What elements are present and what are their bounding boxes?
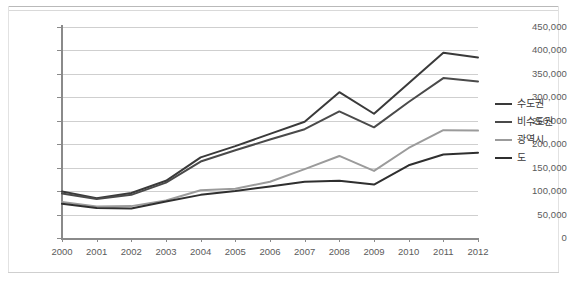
y-axis-label: 50,000 — [515, 209, 567, 220]
x-axis-tick — [270, 238, 271, 242]
legend-color-swatch — [495, 139, 512, 141]
chart-page: 050,000100,000150,000200,000250,000300,0… — [0, 0, 567, 285]
x-axis-label: 2012 — [458, 246, 498, 257]
legend-item[interactable]: 수도권 — [495, 96, 565, 112]
legend-color-swatch — [495, 157, 512, 159]
x-axis-tick — [305, 238, 306, 242]
legend-color-swatch — [495, 121, 512, 123]
y-axis-label: 350,000 — [515, 68, 567, 79]
x-axis-tick — [235, 238, 236, 242]
x-axis-tick — [201, 238, 202, 242]
legend-item[interactable]: 비수도권 — [495, 114, 565, 130]
x-axis-tick — [409, 238, 410, 242]
x-axis-tick — [339, 238, 340, 242]
y-axis-label: 400,000 — [515, 44, 567, 55]
y-axis-label: 450,000 — [515, 21, 567, 32]
x-axis-tick — [166, 238, 167, 242]
legend-label: 도 — [517, 153, 526, 163]
legend-label: 광역시 — [517, 135, 544, 145]
frame-bottom-border — [8, 272, 559, 273]
series-lines-group — [62, 27, 478, 238]
y-axis-label: 100,000 — [515, 185, 567, 196]
x-axis-tick — [443, 238, 444, 242]
series-line — [62, 53, 478, 198]
x-axis-tick — [62, 238, 63, 242]
x-axis-tick — [97, 238, 98, 242]
legend-label: 비수도권 — [517, 117, 553, 127]
x-axis-tick — [374, 238, 375, 242]
legend-item[interactable]: 광역시 — [495, 132, 565, 148]
chart-legend: 수도권비수도권광역시도 — [495, 96, 565, 168]
y-axis-label: 0 — [515, 232, 567, 243]
x-axis-tick — [478, 238, 479, 242]
legend-item[interactable]: 도 — [495, 150, 565, 166]
series-line — [62, 153, 478, 209]
legend-label: 수도권 — [517, 99, 544, 109]
x-axis-tick — [131, 238, 132, 242]
legend-color-swatch — [495, 103, 512, 105]
frame-top-border-secondary — [8, 10, 559, 11]
frame-top-border — [8, 6, 559, 7]
frame-left-border — [8, 6, 9, 273]
